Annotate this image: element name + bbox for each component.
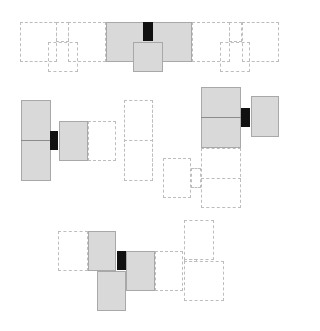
bottom-connector-bar (117, 251, 126, 270)
midright-dashed-connector (191, 168, 201, 188)
top-dashed-right-connector (229, 22, 242, 42)
bottom-dashed-left (58, 231, 88, 271)
midright-dashed-divider (201, 178, 241, 179)
midright-connector-bar (241, 108, 250, 127)
midleft-divider (21, 140, 51, 141)
midright-dashed-leftline (152, 100, 153, 181)
midleft-filled-square (59, 121, 88, 161)
bottom-filled-below (97, 271, 126, 311)
bottom-filled-top (88, 231, 116, 271)
midright-filled-square (251, 96, 279, 137)
midleft-connector-bar (50, 131, 58, 150)
bottom-dashed-square (184, 261, 224, 301)
midleft-dashed-square (88, 121, 116, 161)
top-dashed-right-wide (242, 22, 279, 62)
top-connector-bar (143, 22, 153, 41)
top-dashed-left-span (68, 22, 106, 62)
top-filled-square (133, 42, 163, 72)
bottom-dashed-right (155, 251, 183, 291)
midleft-dashed-divider (124, 140, 153, 141)
bottom-dashed-tall (184, 220, 214, 260)
bottom-filled-right (126, 251, 155, 291)
midright-dashed-left (163, 158, 191, 198)
